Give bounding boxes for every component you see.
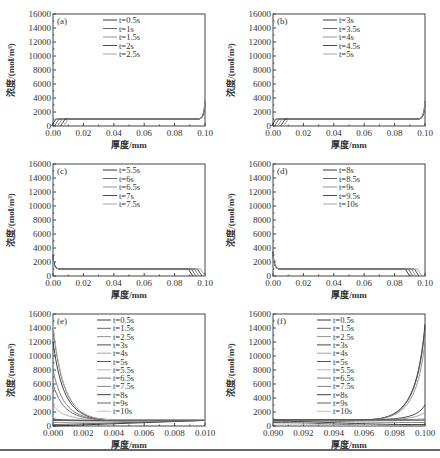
x-tick-label: 0.10 [197, 128, 213, 138]
y-tick-label: 14000 [249, 173, 272, 183]
y-tick-label: 4000 [33, 243, 52, 253]
x-tick-label: 0.008 [164, 428, 185, 438]
x-tick-label: 0.02 [296, 278, 312, 288]
y-tick-label: 10000 [29, 51, 52, 61]
x-tick-label: 0.00 [265, 128, 281, 138]
panel-label: (f) [277, 316, 286, 326]
y-tick-label: 14000 [29, 173, 52, 183]
x-tick-label: 0.08 [387, 278, 403, 288]
x-tick-label: 0.06 [136, 278, 152, 288]
y-axis-label: 浓度/(mol/m³) [225, 343, 236, 397]
x-tick-label: 0.092 [293, 428, 313, 438]
y-tick-label: 2000 [253, 407, 272, 417]
y-axis-label: 浓度/(mol/m³) [225, 193, 236, 247]
x-tick-label: 0.06 [356, 128, 372, 138]
curve-t-4-5s [281, 101, 425, 126]
y-tick-label: 8000 [33, 365, 52, 375]
y-axis-label: 浓度/(mol/m³) [225, 43, 236, 97]
x-tick-label: 0.094 [324, 428, 345, 438]
curve-t-8-5s [273, 253, 413, 276]
y-axis-label: 浓度/(mol/m³) [5, 343, 16, 397]
legend-label: t=10s [333, 406, 352, 416]
legend-label: t=10s [339, 199, 358, 209]
y-tick-label: 6000 [253, 229, 272, 239]
y-tick-label: 10000 [29, 351, 52, 361]
panel-label: (b) [277, 16, 288, 26]
x-tick-label: 0.04 [106, 278, 122, 288]
y-tick-label: 4000 [253, 393, 272, 403]
x-axis-label: 厚度/mm [331, 289, 367, 300]
y-tick-label: 4000 [253, 93, 272, 103]
x-tick-label: 0.00 [45, 278, 61, 288]
y-tick-label: 14000 [29, 23, 52, 33]
y-tick-label: 14000 [249, 23, 272, 33]
y-tick-label: 6000 [253, 379, 272, 389]
curves [273, 252, 422, 277]
y-tick-label: 8000 [33, 65, 52, 75]
y-tick-label: 8000 [253, 65, 272, 75]
y-tick-label: 12000 [249, 337, 272, 347]
curve-t-8s [273, 252, 410, 277]
y-axis-label: 浓度/(mol/m³) [5, 43, 16, 97]
y-tick-label: 4000 [253, 243, 272, 253]
x-tick-label: 0.100 [415, 428, 436, 438]
y-tick-label: 16000 [29, 159, 52, 169]
y-tick-label: 16000 [249, 9, 272, 19]
divider [0, 449, 440, 451]
x-tick-label: 0.090 [263, 428, 284, 438]
curve-t-2s [61, 101, 205, 126]
curve-t-7s [53, 258, 202, 276]
curve-t-2-5s [64, 99, 205, 126]
x-tick-label: 0.000 [43, 428, 64, 438]
x-tick-label: 0.08 [167, 128, 183, 138]
x-tick-label: 0.10 [417, 278, 433, 288]
x-tick-label: 0.04 [326, 128, 342, 138]
y-tick-label: 14000 [249, 323, 272, 333]
x-axis-label: 厚度/mm [111, 289, 147, 300]
y-tick-label: 12000 [29, 37, 52, 47]
panel-label: (d) [277, 166, 288, 176]
x-tick-label: 0.04 [106, 128, 122, 138]
curve-t-7-5s [53, 259, 205, 276]
y-tick-label: 12000 [29, 337, 52, 347]
x-tick-label: 0.006 [134, 428, 155, 438]
x-tick-label: 0.02 [76, 128, 92, 138]
y-tick-label: 8000 [253, 365, 272, 375]
curve-t-4s [278, 102, 425, 126]
y-tick-label: 16000 [29, 9, 52, 19]
x-tick-label: 0.08 [167, 278, 183, 288]
panel-a: 02000400060008000100001200014000160000.0… [0, 0, 220, 150]
y-tick-label: 2000 [253, 257, 272, 267]
curves [271, 99, 425, 126]
curve-t-0-5s [51, 105, 205, 126]
curve-t-9s [273, 254, 416, 276]
x-tick-label: 0.02 [296, 128, 312, 138]
y-tick-label: 10000 [29, 201, 52, 211]
curves [51, 99, 205, 126]
y-tick-label: 8000 [253, 215, 272, 225]
curve-t-5s [284, 99, 425, 126]
panel-f: 02000400060008000100001200014000160000.0… [220, 300, 440, 450]
legend-label: t=10s [113, 406, 132, 416]
y-tick-label: 2000 [33, 407, 52, 417]
panel-label: (c) [57, 166, 67, 176]
x-tick-label: 0.10 [417, 128, 433, 138]
y-tick-label: 16000 [249, 309, 272, 319]
curve-t-9-5s [273, 255, 419, 276]
y-tick-label: 6000 [253, 79, 272, 89]
curve-t-10s [273, 256, 422, 276]
curve-t-1s [55, 104, 205, 126]
y-tick-label: 14000 [29, 323, 52, 333]
curve-t-3s [271, 105, 425, 126]
x-tick-label: 0.02 [76, 278, 92, 288]
y-tick-label: 2000 [253, 107, 272, 117]
y-tick-label: 6000 [33, 229, 52, 239]
y-tick-label: 8000 [33, 215, 52, 225]
x-axis-label: 厚度/mm [111, 139, 147, 150]
x-axis-label: 厚度/mm [331, 139, 367, 150]
y-tick-label: 4000 [33, 93, 52, 103]
x-tick-label: 0.06 [136, 128, 152, 138]
curve-t-6-5s [53, 257, 199, 276]
x-tick-label: 0.08 [387, 128, 403, 138]
y-tick-label: 10000 [249, 201, 272, 211]
